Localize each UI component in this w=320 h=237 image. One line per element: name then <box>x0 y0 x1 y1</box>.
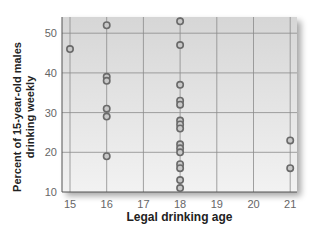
data-point <box>177 185 183 191</box>
data-point <box>177 82 183 88</box>
data-point <box>67 46 73 52</box>
y-tick-label: 10 <box>45 186 57 198</box>
plot-area: 151617181920211020304050 <box>0 0 320 237</box>
data-point <box>104 105 110 111</box>
data-point <box>177 177 183 183</box>
x-tick-label: 15 <box>64 198 76 210</box>
data-point <box>177 18 183 24</box>
data-point <box>177 101 183 107</box>
data-point <box>104 78 110 84</box>
y-axis-label-line-1: Percent of 15-year-old males <box>11 27 24 207</box>
data-point <box>104 22 110 28</box>
data-point <box>177 165 183 171</box>
x-axis-label: Legal drinking age <box>62 210 297 224</box>
x-tick-label: 16 <box>101 198 113 210</box>
x-tick-label: 19 <box>211 198 223 210</box>
y-tick-label: 40 <box>45 67 57 79</box>
x-tick-label: 21 <box>284 198 296 210</box>
data-point <box>177 125 183 131</box>
x-tick-label: 17 <box>137 198 149 210</box>
x-tick-label: 20 <box>247 198 259 210</box>
y-tick-label: 30 <box>45 107 57 119</box>
y-axis-label: Percent of 15-year-old males drinking we… <box>11 27 45 207</box>
data-point <box>177 149 183 155</box>
y-tick-label: 20 <box>45 146 57 158</box>
scatter-chart: 151617181920211020304050 Percent of 15-y… <box>0 0 320 237</box>
y-tick-label: 50 <box>45 27 57 39</box>
x-tick-label: 18 <box>174 198 186 210</box>
data-point <box>104 113 110 119</box>
data-point <box>104 153 110 159</box>
data-point <box>287 165 293 171</box>
data-point <box>177 42 183 48</box>
y-axis-label-line-2: drinking weekly <box>24 27 37 207</box>
data-point <box>287 137 293 143</box>
